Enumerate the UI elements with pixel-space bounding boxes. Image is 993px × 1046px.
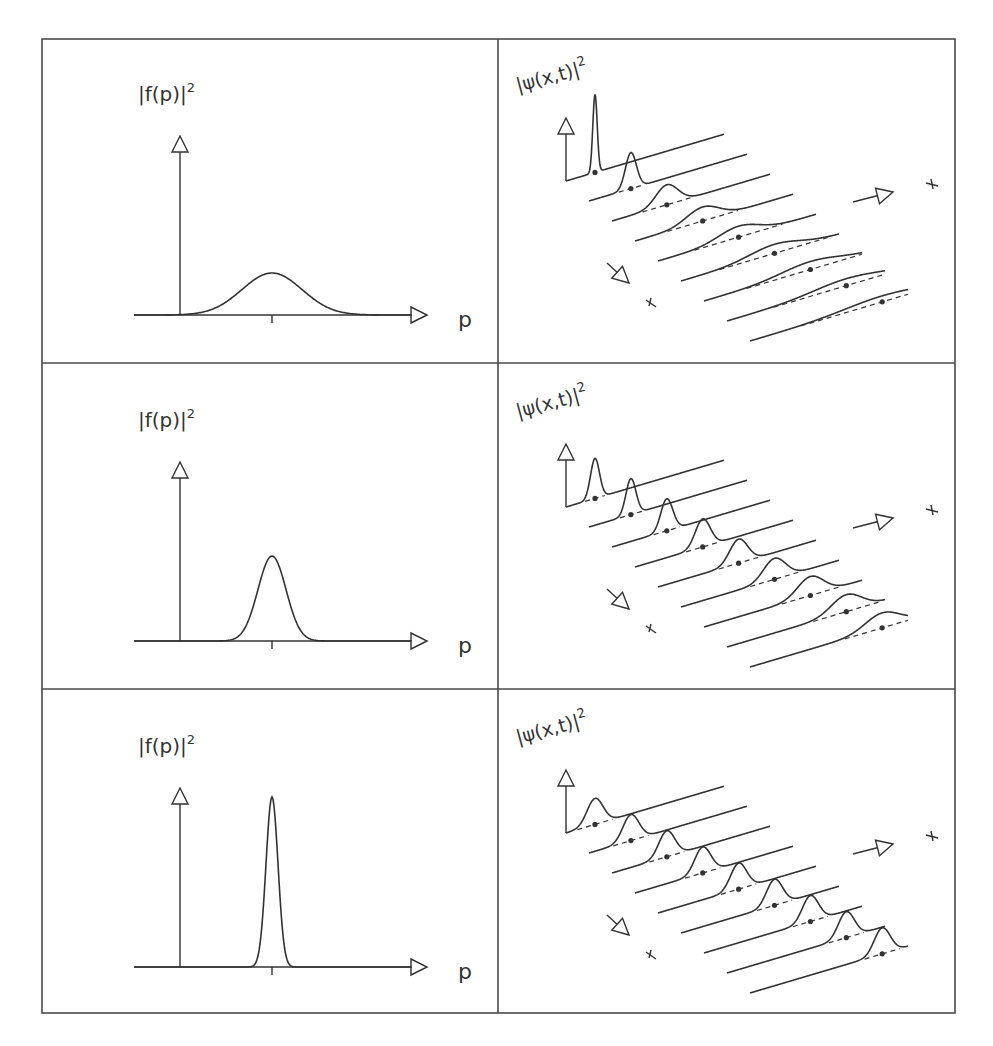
momentum-label: |f(p)|2 xyxy=(138,732,195,758)
wavepacket-panel-2: |ψ(x,t)|2 xyxy=(513,379,938,667)
packet-center-dot xyxy=(592,822,597,827)
psi-axis-arrow-icon xyxy=(558,770,574,786)
wavefunction-label: |ψ(x,t)|2 xyxy=(513,379,590,423)
time-slice-7 xyxy=(704,576,862,627)
t-direction-arrow-icon xyxy=(612,918,629,935)
packet-center-dot xyxy=(808,919,813,924)
packet-center-dot xyxy=(592,170,597,175)
packet-center-dot xyxy=(736,887,741,892)
packet-center-dot xyxy=(772,251,777,256)
time-slice-9 xyxy=(750,290,908,341)
baseline-dash xyxy=(747,254,862,288)
time-slice-8 xyxy=(727,271,885,321)
baseline-dash xyxy=(845,620,908,639)
panels: |f(p)|2p|ψ(x,t)|2|f(p)|2p|ψ(x,t)|2|f(p)|… xyxy=(134,53,938,993)
momentum-axis-label: p xyxy=(458,959,472,984)
time-slice-2 xyxy=(589,479,747,527)
wavefunction-label: |ψ(x,t)|2 xyxy=(513,53,590,97)
t-direction-arrow-icon xyxy=(612,592,629,609)
t-marker xyxy=(649,298,651,306)
momentum-distribution-curve xyxy=(134,556,412,641)
packet-center-dot xyxy=(628,512,633,517)
time-slice-7 xyxy=(704,253,862,301)
time-slice-8 xyxy=(727,912,885,973)
packet-center-dot xyxy=(844,935,849,940)
x-direction-line xyxy=(853,195,880,202)
t-direction-arrow-icon xyxy=(612,266,629,283)
time-slice-3 xyxy=(612,499,770,547)
time-slice-6 xyxy=(681,558,839,607)
t-marker xyxy=(646,626,656,633)
x-direction-line xyxy=(853,847,880,854)
x-direction-arrow-icon xyxy=(876,514,893,529)
packet-center-dot xyxy=(880,299,885,304)
x-direction-arrow-icon xyxy=(876,188,893,203)
momentum-panel-2: |f(p)|2p xyxy=(134,406,472,658)
packet-center-dot xyxy=(628,186,633,191)
packet-center-dot xyxy=(664,202,669,207)
momentum-axis-label: p xyxy=(458,307,472,332)
y-axis-arrow-icon xyxy=(172,136,188,152)
momentum-label: |f(p)|2 xyxy=(138,406,195,432)
x-direction-arrow-icon xyxy=(876,840,893,855)
t-marker xyxy=(649,950,651,958)
y-axis-arrow-icon xyxy=(172,462,188,478)
time-slice-9 xyxy=(750,928,908,993)
momentum-panel-1: |f(p)|2p xyxy=(134,80,472,332)
packet-center-dot xyxy=(880,951,885,956)
baseline-dash xyxy=(774,274,885,307)
momentum-axis-label: p xyxy=(458,633,472,658)
packet-center-dot xyxy=(880,625,885,630)
packet-center-dot xyxy=(772,577,777,582)
packet-center-dot xyxy=(736,235,741,240)
x-direction-line xyxy=(853,521,880,528)
wavepacket-panel-1: |ψ(x,t)|2 xyxy=(513,53,938,341)
packet-center-dot xyxy=(808,593,813,598)
t-marker xyxy=(646,952,656,959)
packet-center-dot xyxy=(664,854,669,859)
momentum-label: |f(p)|2 xyxy=(138,80,195,106)
packet-center-dot xyxy=(592,496,597,501)
t-marker xyxy=(646,300,656,307)
packet-center-dot xyxy=(736,561,741,566)
x-marker xyxy=(931,179,933,189)
momentum-distribution-curve xyxy=(134,273,412,315)
momentum-distribution-curve xyxy=(134,797,412,967)
packet-center-dot xyxy=(664,528,669,533)
x-marker xyxy=(931,831,933,841)
time-slice-4 xyxy=(635,519,793,567)
packet-center-dot xyxy=(700,870,705,875)
t-marker xyxy=(649,624,651,632)
x-marker xyxy=(931,505,933,515)
x-axis-arrow-icon xyxy=(411,633,427,649)
wavefunction-label: |ψ(x,t)|2 xyxy=(513,705,590,749)
time-slice-6 xyxy=(681,879,839,933)
packet-center-dot xyxy=(628,838,633,843)
packet-center-dot xyxy=(772,903,777,908)
time-slice-9 xyxy=(750,612,908,667)
x-axis-arrow-icon xyxy=(411,307,427,323)
momentum-panel-3: |f(p)|2p xyxy=(134,732,472,984)
packet-center-dot xyxy=(808,267,813,272)
psi-axis-arrow-icon xyxy=(558,118,574,134)
packet-center-dot xyxy=(700,218,705,223)
time-slice-2 xyxy=(589,806,747,853)
time-slice-8 xyxy=(727,594,885,647)
table-grid xyxy=(42,39,955,1013)
x-axis-arrow-icon xyxy=(411,959,427,975)
packet-center-dot xyxy=(844,283,849,288)
psi-axis-arrow-icon xyxy=(558,444,574,460)
wave-packet-figure: |f(p)|2p|ψ(x,t)|2|f(p)|2p|ψ(x,t)|2|f(p)|… xyxy=(0,0,993,1046)
y-axis-arrow-icon xyxy=(172,788,188,804)
packet-center-dot xyxy=(700,544,705,549)
baseline-dash xyxy=(801,294,908,326)
wavepacket-panel-3: |ψ(x,t)|2 xyxy=(513,705,938,993)
packet-center-dot xyxy=(844,609,849,614)
time-slice-2 xyxy=(589,153,747,201)
